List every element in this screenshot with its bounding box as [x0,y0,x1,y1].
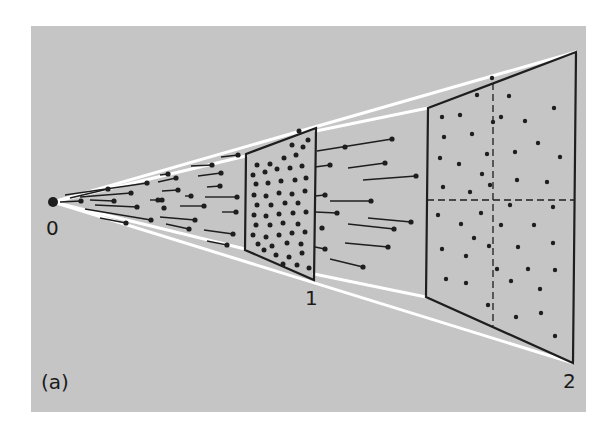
particle-trail [345,243,388,247]
frame-2-particle [545,180,549,184]
frame-2-particle [539,311,543,315]
particle-dot [188,193,193,198]
frame-2-particle [515,178,519,182]
particle-dot [408,219,413,224]
frame-1-particle [295,263,300,268]
particle-dot [322,192,327,197]
particle-dot [175,187,180,192]
frame-1-particle [291,211,296,216]
frame-1-particle [277,191,282,196]
cone-edge-line [53,202,245,249]
particle-trail [368,218,411,222]
frame-2-particle [440,115,444,119]
particle-dot [235,152,240,157]
frame-2-particle [558,155,562,159]
particle-trail [166,224,189,229]
frame-1-particle [266,181,271,186]
particle-dot [123,220,128,225]
frame-2-particle [490,76,494,80]
particle-dot [319,225,324,230]
particle-dot [368,198,373,203]
particle-trail [90,200,114,201]
particle-trail [95,205,137,207]
expansion-cone-diagram [0,0,616,428]
cone-edge-line [314,274,426,297]
frame-2-particle [468,190,472,194]
frame-1-particle [296,222,301,227]
particle-dot [173,175,178,180]
particle-trail [317,139,392,151]
frame-2-particle [487,244,491,248]
particle-trail [191,165,212,166]
frame-1-particle [251,173,256,178]
particle-dot [134,204,139,209]
frame-2-particle [551,241,555,245]
particle-trail [348,163,385,168]
frame-2-particle [457,162,461,166]
frame-2-particle [485,152,489,156]
particle-dot [186,226,191,231]
frame2-label: 2 [563,371,576,391]
frame-2-particle [436,213,440,217]
frame-1-particle [283,201,288,206]
particle-dot [360,264,365,269]
frame-1-particle [304,176,309,181]
frame-2-particle [475,93,479,97]
particle-dot [217,183,222,188]
frame-1-particle [270,244,275,249]
frame-1-particle [290,231,295,236]
particle-dot [391,226,396,231]
frame-1-particle [277,233,282,238]
frame-2-particle [523,119,527,123]
frame-2-particle [486,303,490,307]
frame-2-particle [538,287,542,291]
particle-dot [382,160,387,165]
particle-dot [159,197,164,202]
cone-edge-line [53,202,573,363]
frame-1-particle [303,189,308,194]
frame-2-particle [551,205,555,209]
particle-trail [363,176,416,180]
frame-2-particle [472,236,476,240]
frame-2-particle [479,211,483,215]
frame-2-particle [442,135,446,139]
frame-2-particle [441,185,445,189]
figure-canvas: 0 1 2 (a) [0,0,616,428]
frame-1-particle [296,201,301,206]
frame-1-particle [277,212,282,217]
frame-1-particle [293,178,298,183]
frame-1-particle [290,143,295,148]
frame-1-particle [279,179,284,184]
frame-1-particle [307,266,312,271]
frame-1-particle [254,223,259,228]
frame-2-particle [553,334,557,338]
particle-dot [105,186,110,191]
frame-2-particle [536,141,540,145]
frame-1-particle [294,153,299,158]
particle-dot [385,244,390,249]
frame-2-particle [464,254,468,258]
frame1-label: 1 [305,288,318,308]
particle-dot [165,171,170,176]
particle-dot [128,190,133,195]
frame-1-particle [254,182,259,187]
panel-label: (a) [41,372,69,392]
particle-dot [218,170,223,175]
frame-1-particle [290,192,295,197]
frame-2-particle [458,113,462,117]
origin-label: 0 [46,218,59,238]
frame-2-particle [491,120,495,124]
particle-trail [60,201,81,202]
frame-2-particle [553,268,557,272]
particle-trail [204,230,233,234]
particle-dot [148,217,153,222]
frame-2-particle [464,281,468,285]
frame-1-particle [288,166,293,171]
frame-2-particle [552,106,556,110]
origin-point [48,197,58,207]
particle-dot [342,144,347,149]
particle-dot [161,205,166,210]
frame-1-particle [264,194,269,199]
frame-1-particle [306,138,311,143]
particle-dot [224,242,229,247]
